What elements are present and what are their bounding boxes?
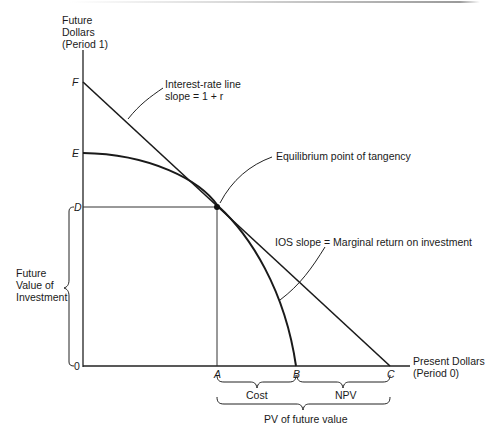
npv-label: NPV (335, 389, 357, 401)
cost-brace (217, 375, 296, 388)
ios-label: IOS slope = Marginal return on investmen… (275, 236, 472, 248)
y-axis-label-line1: Future (62, 14, 92, 26)
ios-leader (280, 247, 325, 300)
pv-brace (217, 397, 390, 410)
npv-brace (297, 375, 390, 388)
point-label-e: E (72, 147, 79, 159)
interest-rate-label-line1: Interest-rate line (165, 78, 241, 90)
future-value-label-line3: Investment (16, 291, 67, 303)
y-axis-label-line2: Dollars (62, 26, 95, 38)
equilibrium-leader (220, 157, 272, 203)
future-value-label-line1: Future (16, 267, 46, 279)
point-label-c: C (387, 368, 395, 380)
tangency-point (214, 204, 220, 210)
y-axis-label-line3: (Period 1) (62, 38, 108, 50)
interest-rate-label-line2: slope = 1 + r (165, 90, 223, 102)
equilibrium-label: Equilibrium point of tangency (276, 150, 411, 162)
point-label-b: B (293, 368, 300, 380)
point-label-a: A (214, 368, 221, 380)
future-value-label-line2: Value of (16, 279, 54, 291)
origin-label: 0 (74, 360, 80, 372)
ios-curve (83, 153, 296, 366)
interest-rate-leader (128, 88, 163, 119)
x-axis-label-line1: Present Dollars (413, 355, 485, 367)
cost-label: Cost (246, 389, 268, 401)
pv-label: PV of future value (264, 413, 347, 425)
x-axis-label-line2: (Period 0) (413, 367, 459, 379)
point-label-f: F (72, 76, 78, 88)
future-value-brace (64, 207, 74, 366)
point-label-d: D (74, 201, 82, 213)
